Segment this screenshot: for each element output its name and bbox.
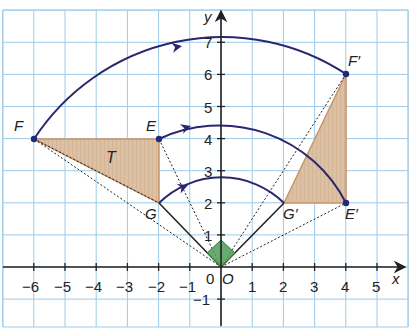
x-tick-label: −5	[54, 278, 71, 295]
y-tick-label: 3	[204, 163, 212, 180]
label-E: E	[146, 117, 157, 134]
origin-zero-label: 0	[206, 270, 214, 287]
rotation-diagram: −6 −5 −4 −3 −2 −1 1 2 3 4 5 1 2 3 4 5 6 …	[0, 0, 413, 334]
label-F-prime: F′	[348, 52, 361, 69]
label-F: F	[14, 117, 24, 134]
point-F	[31, 136, 37, 142]
point-F-prime	[343, 71, 349, 77]
y-tick-label: 1	[204, 227, 212, 244]
x-tick-label: −4	[85, 278, 102, 295]
x-tick-label: 4	[341, 278, 349, 295]
y-tick-label: 4	[204, 131, 212, 148]
label-O: O	[222, 270, 234, 287]
x-tick-label: −3	[116, 278, 133, 295]
label-T: T	[106, 149, 117, 166]
y-tick-label: 5	[204, 99, 212, 116]
x-axis-label: x	[391, 270, 400, 287]
x-tick-label: 3	[310, 278, 318, 295]
x-tick-label: −2	[148, 278, 165, 295]
y-tick-label: 2	[204, 195, 212, 212]
y-tick-label: 7	[204, 34, 212, 51]
y-tick-label: 6	[204, 66, 212, 83]
x-tick-label: 2	[279, 278, 287, 295]
x-tick-label: −6	[22, 278, 39, 295]
y-tick-label: −1	[193, 291, 210, 308]
label-G: G	[145, 205, 157, 222]
x-tick-label: 5	[372, 278, 380, 295]
label-G-prime: G′	[283, 205, 299, 222]
label-E-prime: E′	[345, 205, 359, 222]
x-tick-label: 1	[248, 278, 256, 295]
point-E	[156, 136, 162, 142]
